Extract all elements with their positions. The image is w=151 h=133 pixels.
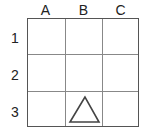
triangle-shape-b3 (0, 0, 151, 133)
triangle-icon (70, 97, 99, 122)
